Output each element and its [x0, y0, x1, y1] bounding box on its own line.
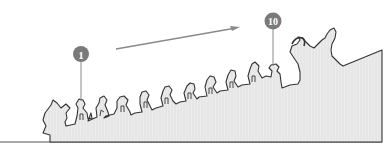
direction-arrow [116, 26, 240, 49]
marker-1: 1 [73, 46, 89, 101]
roof-ridge-diagram: 1 10 [0, 0, 386, 152]
roof-ridge [43, 28, 382, 142]
marker-10: 10 [265, 13, 282, 67]
marker-1-label: 1 [78, 49, 84, 61]
marker-10-label: 10 [268, 16, 278, 27]
